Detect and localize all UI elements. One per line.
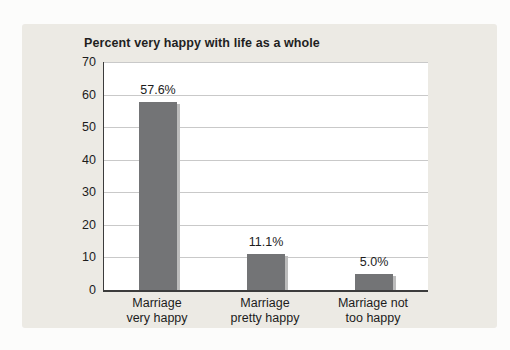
y-tick-label: 0 — [60, 284, 96, 297]
chart-title: Percent very happy with life as a whole — [84, 36, 320, 50]
y-tick-label: 30 — [60, 186, 96, 199]
y-tick-label: 70 — [60, 56, 96, 69]
y-tick-label: 20 — [60, 219, 96, 232]
bar — [247, 254, 285, 290]
y-tick-label: 60 — [60, 88, 96, 101]
bar — [355, 274, 393, 290]
bar-value-label: 57.6% — [118, 83, 198, 97]
gridline — [104, 62, 428, 63]
y-tick-label: 40 — [60, 153, 96, 166]
x-category-label: Marriage pretty happy — [210, 296, 320, 327]
x-category-label: Marriage very happy — [102, 296, 212, 327]
bar-value-label: 5.0% — [334, 255, 414, 269]
bar — [139, 102, 177, 290]
plot-area: 57.6%11.1%5.0% — [103, 62, 428, 292]
bar-value-label: 11.1% — [226, 235, 306, 249]
x-axis-labels: Marriage very happyMarriage pretty happy… — [103, 296, 427, 330]
page: { "page": { "background": "#fcfcfb" }, "… — [0, 0, 510, 350]
y-tick-label: 50 — [60, 121, 96, 134]
x-category-label: Marriage not too happy — [318, 296, 428, 327]
y-tick-label: 10 — [60, 251, 96, 264]
